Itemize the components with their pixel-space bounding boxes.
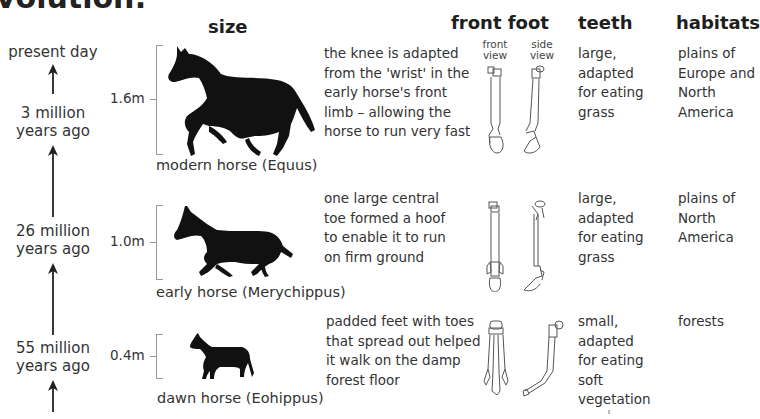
timeline-present-day: present day bbox=[0, 43, 106, 61]
teeth-description: large, adapted for eating grass bbox=[578, 189, 644, 267]
front-foot-bone-icon bbox=[484, 65, 508, 155]
horse-silhouette-icon bbox=[173, 204, 295, 278]
size-bracket bbox=[156, 205, 163, 280]
timeline-26-million: 26 million years ago bbox=[0, 222, 106, 258]
front-view-label: front view bbox=[480, 39, 510, 61]
arrow-up-icon bbox=[48, 64, 58, 94]
horse-name: early horse (Merychippus) bbox=[156, 284, 346, 300]
side-foot-bone-icon bbox=[522, 200, 552, 292]
header-habitats: habitats bbox=[676, 12, 760, 33]
front-foot-bone-icon bbox=[483, 200, 507, 292]
height-label: 0.4m bbox=[110, 347, 145, 363]
arrow-up-icon bbox=[48, 380, 58, 412]
view-label-line: view bbox=[527, 50, 557, 61]
size-bracket bbox=[156, 45, 163, 155]
height-label: 1.6m bbox=[110, 90, 145, 106]
timeline-label: years ago bbox=[0, 357, 106, 375]
teeth-description: small, adapted for eating soft vegetatio… bbox=[578, 312, 651, 410]
timeline-3-million: 3 million years ago bbox=[0, 104, 106, 140]
timeline-label: years ago bbox=[0, 122, 106, 140]
horse-name: dawn horse (Eohippus) bbox=[157, 390, 324, 406]
teeth-description: large, adapted for eating grass bbox=[578, 44, 644, 122]
timeline-label: 26 million bbox=[0, 222, 106, 240]
view-label-line: view bbox=[480, 50, 510, 61]
timeline-55-million: 55 million years ago bbox=[0, 339, 106, 375]
foot-description: one large central toe formed a hoof to e… bbox=[324, 189, 446, 267]
foot-description: padded feet with toes that spread out he… bbox=[326, 312, 480, 390]
habitat-description: plains of Europe and North America bbox=[678, 44, 755, 122]
timeline-label: 55 million bbox=[0, 339, 106, 357]
timeline-label: years ago bbox=[0, 240, 106, 258]
habitat-description: forests bbox=[678, 312, 724, 332]
side-foot-bone-icon bbox=[521, 319, 565, 397]
horse-silhouette-icon bbox=[190, 333, 256, 379]
arrow-up-icon bbox=[48, 263, 58, 335]
horse-name: modern horse (Equus) bbox=[156, 157, 317, 173]
diagram-title: volution: bbox=[0, 0, 146, 15]
header-teeth: teeth bbox=[578, 12, 632, 33]
horse-silhouette-icon bbox=[165, 44, 317, 157]
habitat-description: plains of North America bbox=[678, 189, 735, 248]
header-size: size bbox=[208, 16, 248, 37]
side-view-label: side view bbox=[527, 39, 557, 61]
header-front-foot: front foot bbox=[451, 12, 549, 33]
front-foot-bone-icon bbox=[482, 319, 512, 397]
arrow-up-icon bbox=[48, 145, 58, 217]
foot-description: the knee is adapted from the 'wrist' in … bbox=[324, 44, 470, 142]
height-label: 1.0m bbox=[110, 233, 145, 249]
scan-speck bbox=[608, 410, 610, 414]
size-bracket bbox=[156, 334, 163, 379]
timeline-label: present day bbox=[8, 43, 97, 61]
timeline-label: 3 million bbox=[0, 104, 106, 122]
side-foot-bone-icon bbox=[520, 65, 552, 155]
